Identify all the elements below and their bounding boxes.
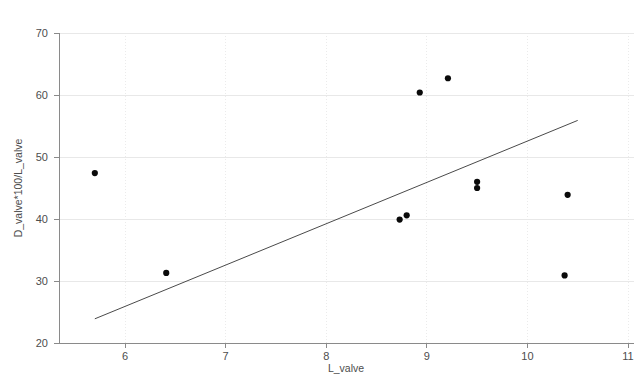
y-tick-label: 50 bbox=[36, 151, 48, 163]
data-points bbox=[92, 75, 571, 278]
data-point bbox=[92, 170, 98, 176]
x-tick-label: 11 bbox=[622, 350, 633, 362]
y-tick-label: 20 bbox=[36, 337, 48, 349]
x-axis-title: L_valve bbox=[328, 362, 364, 374]
y-tick-label: 70 bbox=[36, 27, 48, 39]
data-point bbox=[397, 217, 403, 223]
x-tick-label: 10 bbox=[521, 350, 533, 362]
vertical-gridlines bbox=[125, 33, 628, 343]
data-point bbox=[474, 185, 480, 191]
x-tick-label: 9 bbox=[424, 350, 430, 362]
y-axis-title: D_valve*100/L_valve bbox=[12, 139, 24, 238]
data-point bbox=[445, 75, 451, 81]
x-tick-label: 6 bbox=[122, 350, 128, 362]
regression-line bbox=[95, 120, 578, 318]
horizontal-gridlines bbox=[59, 33, 634, 281]
figure-container: 203040506070 67891011 L_valve D_valve*10… bbox=[0, 0, 641, 384]
y-tick-label: 30 bbox=[36, 275, 48, 287]
data-point bbox=[404, 212, 410, 218]
y-tick-label: 40 bbox=[36, 213, 48, 225]
data-point bbox=[474, 179, 480, 185]
data-point bbox=[417, 89, 423, 95]
data-point bbox=[163, 270, 169, 276]
data-point bbox=[565, 192, 571, 198]
y-tick-label: 60 bbox=[36, 89, 48, 101]
trend-line bbox=[95, 120, 578, 318]
scatter-plot: 203040506070 67891011 L_valve D_valve*10… bbox=[0, 0, 641, 384]
data-point bbox=[562, 272, 568, 278]
x-tick-label: 7 bbox=[223, 350, 229, 362]
y-axis-ticks: 203040506070 bbox=[36, 27, 59, 349]
x-axis-ticks: 67891011 bbox=[122, 343, 634, 362]
x-tick-label: 8 bbox=[323, 350, 329, 362]
